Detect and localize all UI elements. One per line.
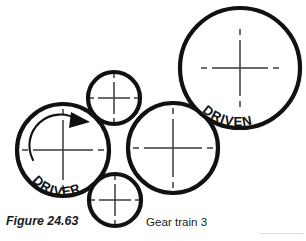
- figure-container: DRIVER DRIVEN Figure 24.63 Gear train 3: [0, 0, 306, 241]
- gear-train-diagram: DRIVER DRIVEN: [0, 0, 306, 241]
- bottom-rule-divider: [259, 233, 303, 234]
- figure-number-caption: Figure 24.63: [6, 214, 78, 228]
- figure-title-caption: Gear train 3: [146, 215, 207, 228]
